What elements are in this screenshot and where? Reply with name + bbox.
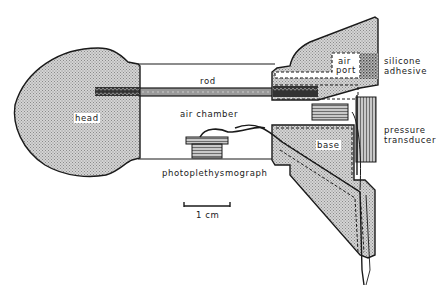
label-pressure-1: pressure xyxy=(384,125,426,135)
block-thread xyxy=(273,86,318,97)
label-silicone-2: adhesive xyxy=(384,66,427,76)
label-photoplethysmograph: photoplethysmograph xyxy=(162,168,267,178)
head-thread xyxy=(95,87,140,96)
rod xyxy=(140,88,275,96)
label-base: base xyxy=(316,140,341,150)
label-air-port-2: port xyxy=(336,65,356,75)
label-pressure-2: transducer xyxy=(384,135,436,145)
probe-diagram xyxy=(0,0,442,285)
label-rod: rod xyxy=(200,76,216,86)
silicone-adhesive xyxy=(360,53,378,79)
label-head: head xyxy=(74,113,100,123)
label-scale: 1 cm xyxy=(196,210,219,220)
label-air-chamber: air chamber xyxy=(180,109,238,119)
photoplethysmograph xyxy=(186,127,265,158)
label-silicone-1: silicone xyxy=(384,56,421,66)
scale-bar xyxy=(184,202,230,207)
